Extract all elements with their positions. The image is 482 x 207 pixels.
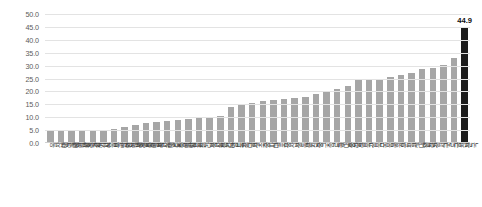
- x-axis-label-slot: 금천구: [449, 145, 460, 205]
- x-axis-label-slot: 전라북도: [194, 145, 205, 205]
- bar[interactable]: [366, 79, 372, 143]
- bar[interactable]: [355, 80, 361, 143]
- x-axis-label-slot: 영등포구: [226, 145, 237, 205]
- bar[interactable]: [345, 86, 351, 143]
- x-axis-label-slot: 충청남도: [173, 145, 184, 205]
- x-axis-label-slot: 경상북도: [204, 145, 215, 205]
- y-axis-tick-label: 45.0: [25, 23, 39, 30]
- bar[interactable]: [313, 94, 319, 143]
- x-axis-label-slot: 전국: [459, 145, 470, 205]
- plot-area: 44.9: [45, 14, 470, 143]
- bar[interactable]: [260, 101, 266, 143]
- x-axis-label-slot: 구로구: [438, 145, 449, 205]
- gridline: [45, 66, 470, 67]
- x-axis-label-slot: 서초구: [247, 145, 258, 205]
- x-axis-tick-label: 전국: [465, 141, 476, 150]
- gridline: [45, 117, 470, 118]
- x-axis-label-slot: 충청북도: [141, 145, 152, 205]
- y-axis-tick-label: 10.0: [25, 114, 39, 121]
- x-axis-label-slot: 중랑구: [343, 145, 354, 205]
- y-axis: 50.045.040.035.030.025.020.015.010.05.00…: [0, 0, 45, 143]
- y-axis-tick-label: 50.0: [25, 11, 39, 18]
- bar[interactable]: [249, 103, 255, 143]
- x-axis-label-slot: 강원도: [183, 145, 194, 205]
- bar[interactable]: [419, 69, 425, 143]
- x-axis-label-slot: 대구광역시: [56, 145, 67, 205]
- bar[interactable]: [334, 89, 340, 143]
- bar[interactable]: [398, 75, 404, 143]
- bar[interactable]: [238, 105, 244, 143]
- bar-chart: 50.045.040.035.030.025.020.015.010.05.00…: [0, 0, 482, 207]
- bar-value-label: 44.9: [457, 17, 472, 25]
- x-axis-label-slot: 경기도: [88, 145, 99, 205]
- x-axis-label-slot: 서울특별시: [98, 145, 109, 205]
- x-axis-label-slot: 경상남도: [151, 145, 162, 205]
- y-axis-tick-label: 15.0: [25, 101, 39, 108]
- x-axis-label-slot: 은평구: [396, 145, 407, 205]
- y-axis-tick-label: 5.0: [29, 127, 39, 134]
- x-axis-label-slot: 종로구: [321, 145, 332, 205]
- y-axis-tick-label: 20.0: [25, 88, 39, 95]
- x-axis-label-slot: 용산구: [279, 145, 290, 205]
- x-axis-label-slot: 울산광역시: [45, 145, 56, 205]
- x-axis-label-slot: 제주특별시: [162, 145, 173, 205]
- x-axis-label-slot: 노원구: [385, 145, 396, 205]
- x-axis-label-slot: 강북구: [364, 145, 375, 205]
- x-axis-label-slot: 광주광역시: [77, 145, 88, 205]
- bar-highlighted[interactable]: [461, 27, 467, 143]
- x-axis-label-slot: 대전광역시: [66, 145, 77, 205]
- gridline: [45, 53, 470, 54]
- x-axis-label-slot: 강남구: [236, 145, 247, 205]
- x-axis-label-slot: 세종특별시: [130, 145, 141, 205]
- gridline: [45, 130, 470, 131]
- x-axis-label-slot: 중구: [311, 145, 322, 205]
- y-axis-tick-label: 40.0: [25, 36, 39, 43]
- x-axis-label-slot: 양천구: [417, 145, 428, 205]
- bar[interactable]: [408, 73, 414, 143]
- bar[interactable]: [228, 107, 234, 143]
- gridline: [45, 91, 470, 92]
- gridline: [45, 104, 470, 105]
- y-axis-tick-label: 30.0: [25, 62, 39, 69]
- x-axis-label-slot: 송파구: [258, 145, 269, 205]
- x-axis-label-slot: 전라남도: [215, 145, 226, 205]
- x-axis-label-slot: 서대문구: [406, 145, 417, 205]
- x-axis-label-slot: 도봉구: [374, 145, 385, 205]
- x-axis-label-slot: 동대문구: [332, 145, 343, 205]
- x-axis-label-slot: 부산광역시: [109, 145, 120, 205]
- x-axis-label-slot: 인천광역시: [119, 145, 130, 205]
- bar[interactable]: [376, 79, 382, 143]
- x-axis-label-slot: 마포구: [268, 145, 279, 205]
- bar[interactable]: [387, 77, 393, 143]
- bar[interactable]: [270, 100, 276, 143]
- y-axis-tick-label: 0.0: [29, 140, 39, 147]
- gridline: [45, 40, 470, 41]
- gridline: [45, 27, 470, 28]
- y-axis-tick-label: 25.0: [25, 75, 39, 82]
- y-axis-tick-label: 35.0: [25, 49, 39, 56]
- x-axis-label-slot: 강서구: [428, 145, 439, 205]
- gridline: [45, 79, 470, 80]
- x-axis-label-slot: 성북구: [353, 145, 364, 205]
- x-axis-labels: 울산광역시대구광역시대전광역시광주광역시경기도서울특별시부산광역시인천광역시세종…: [45, 145, 470, 205]
- gridline: [45, 14, 470, 15]
- x-axis-label-slot: 광진구: [300, 145, 311, 205]
- x-axis-label-slot: 성동구: [289, 145, 300, 205]
